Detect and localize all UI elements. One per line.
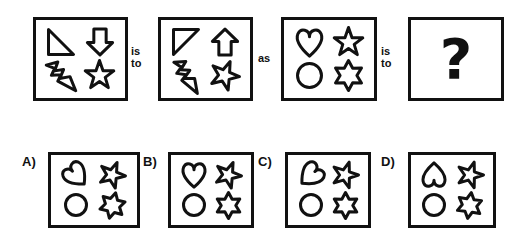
option-label-c[interactable]: C) bbox=[258, 155, 272, 168]
star5-icon bbox=[329, 25, 368, 59]
question-mark: ? bbox=[411, 20, 501, 98]
analogy-term-2 bbox=[158, 17, 253, 101]
triangle-icon bbox=[42, 25, 80, 59]
star5-icon bbox=[452, 160, 487, 190]
star6-icon bbox=[211, 190, 245, 220]
bolt-icon bbox=[42, 59, 80, 93]
triangle-icon bbox=[167, 25, 205, 59]
star5-icon bbox=[81, 59, 119, 93]
circle-icon bbox=[290, 59, 329, 93]
star6-icon bbox=[328, 190, 362, 220]
star5-icon bbox=[94, 160, 131, 190]
star6-icon bbox=[329, 59, 368, 93]
bolt-icon bbox=[167, 59, 205, 93]
star5-icon bbox=[206, 59, 244, 93]
star6-icon bbox=[94, 190, 131, 220]
option-panel-d[interactable] bbox=[408, 152, 496, 228]
heart-icon bbox=[417, 160, 452, 190]
option-label-d[interactable]: D) bbox=[381, 155, 395, 168]
circle-icon bbox=[57, 190, 94, 220]
analogy-term-3 bbox=[281, 17, 377, 101]
star5-icon bbox=[328, 160, 362, 190]
option-panel-b[interactable] bbox=[168, 152, 254, 228]
heart-icon bbox=[177, 160, 211, 190]
puzzle-stage: ?is toasis toA)B)C)D) bbox=[0, 0, 518, 248]
option-label-a[interactable]: A) bbox=[22, 155, 36, 168]
connector-conn2: as bbox=[258, 52, 270, 64]
analogy-answer-unknown: ? bbox=[408, 17, 504, 101]
arrow-icon bbox=[206, 25, 244, 59]
heart-icon bbox=[57, 160, 94, 190]
analogy-term-1 bbox=[33, 17, 128, 101]
heart-icon bbox=[290, 25, 329, 59]
option-panel-a[interactable] bbox=[48, 152, 140, 228]
star6-icon bbox=[452, 190, 487, 220]
option-panel-c[interactable] bbox=[285, 152, 371, 228]
connector-conn1: is to bbox=[131, 45, 141, 69]
circle-icon bbox=[417, 190, 452, 220]
circle-icon bbox=[294, 190, 328, 220]
circle-icon bbox=[177, 190, 211, 220]
option-label-b[interactable]: B) bbox=[143, 155, 157, 168]
arrow-icon bbox=[81, 25, 119, 59]
heart-icon bbox=[294, 160, 328, 190]
star5-icon bbox=[211, 160, 245, 190]
connector-conn3: is to bbox=[381, 45, 391, 69]
